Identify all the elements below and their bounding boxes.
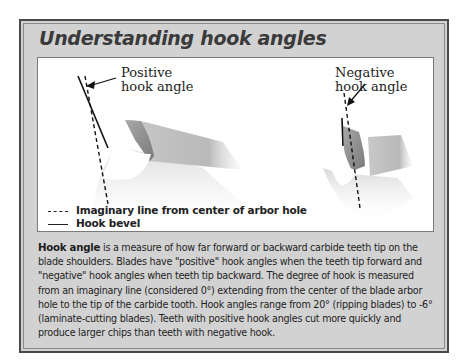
solid-line-icon	[48, 224, 68, 225]
legend-item-imaginary-line: Imaginary line from center of arbor hole	[48, 204, 307, 216]
negative-hook-tooth	[323, 126, 413, 223]
box-title: Understanding hook angles	[39, 27, 326, 49]
dashed-line-icon	[48, 211, 68, 212]
body-paragraph: Hook angle is a measure of how far forwa…	[38, 241, 434, 340]
hook-bevel-line-negative	[342, 118, 343, 146]
negative-hook-label: Negative hook angle	[335, 66, 407, 94]
legend-item-hook-bevel: Hook bevel	[48, 217, 140, 229]
positive-hook-label: Positive hook angle	[121, 66, 193, 94]
diagram-panel: Positive hook angle Negative hook angle …	[37, 57, 434, 232]
term: Hook angle	[38, 242, 100, 253]
